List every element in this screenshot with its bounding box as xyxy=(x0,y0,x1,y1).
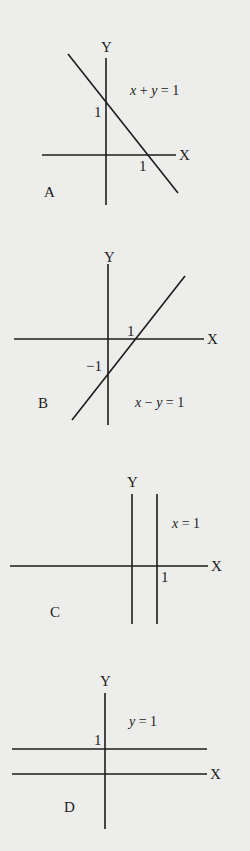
y-intercept-label: 1 xyxy=(94,104,102,120)
y-axis-label: Y xyxy=(101,39,112,55)
y-axis-label: Y xyxy=(127,474,138,490)
y-axis-label: Y xyxy=(104,249,115,265)
diagram-page: Y X 1 1 x + y = 1 A Y X 1 −1 x − y = 1 B… xyxy=(0,0,250,851)
diagram-letter: A xyxy=(44,184,55,200)
equation-label: x + y = 1 xyxy=(129,83,179,98)
diagram-letter: D xyxy=(64,799,75,815)
x-intercept-label: 1 xyxy=(161,569,169,585)
x-intercept-label: 1 xyxy=(127,323,135,339)
diagram-c: Y X 1 x = 1 C xyxy=(10,474,222,624)
x-axis-label: X xyxy=(211,558,222,574)
x-intercept-label: 1 xyxy=(139,158,147,174)
graph-line xyxy=(68,54,178,193)
diagram-a: Y X 1 1 x + y = 1 A xyxy=(42,39,190,205)
x-axis-label: X xyxy=(179,147,190,163)
diagram-d: Y X 1 y = 1 D xyxy=(12,673,221,829)
diagram-b: Y X 1 −1 x − y = 1 B xyxy=(14,249,218,425)
equation-label: x − y = 1 xyxy=(134,395,184,410)
x-axis-label: X xyxy=(210,766,221,782)
equation-label: y = 1 xyxy=(127,714,157,729)
equation-label: x = 1 xyxy=(171,516,200,531)
x-axis-label: X xyxy=(207,331,218,347)
diagram-letter: C xyxy=(50,604,60,620)
diagram-letter: B xyxy=(38,395,48,411)
y-axis-label: Y xyxy=(100,673,111,689)
y-intercept-label: 1 xyxy=(94,732,102,748)
y-intercept-label: −1 xyxy=(86,358,102,374)
